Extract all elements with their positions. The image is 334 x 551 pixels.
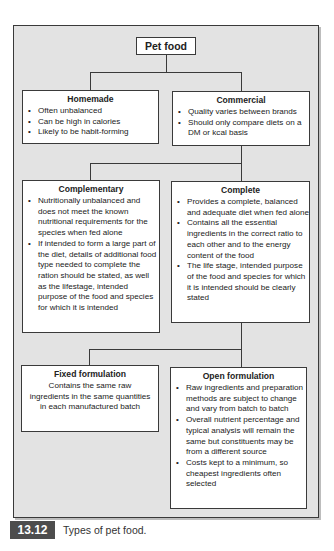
box-title: Homemade <box>23 94 158 105</box>
connector-complementary-down <box>90 163 91 180</box>
box-homemade: Homemade Often unbalanced Can be high in… <box>22 90 159 144</box>
figure-caption: Types of pet food. <box>63 522 146 538</box>
connector-homemade-down <box>90 72 91 90</box>
bullet-item: The life stage, intended purpose of the … <box>187 261 309 304</box>
box-open-formulation: Open formulation Raw ingredients and pre… <box>170 367 307 509</box>
box-title: Open formulation <box>171 371 306 382</box>
connector-level1-horizontal <box>90 72 242 73</box>
bullet-item: Likely to be habit-forming <box>38 127 158 138</box>
figure-number-badge: 13.12 <box>10 521 55 539</box>
box-title: Complementary <box>23 184 159 195</box>
root-box-pet-food: Pet food <box>136 37 196 55</box>
bullet-list: Often unbalanced Can be high in calories… <box>23 106 158 138</box>
box-fixed-formulation: Fixed formulation Contains the same raw … <box>21 365 159 432</box>
bullet-item: If intended to form a large part of the … <box>38 239 159 314</box>
connector-level2-horizontal <box>90 163 242 164</box>
bullet-item: Should only compare diets on a DM or kca… <box>188 118 309 139</box>
connector-level3-horizontal <box>89 349 242 350</box>
connector-complete-out <box>241 322 242 367</box>
bullet-list: Provides a complete, balanced and adequa… <box>172 197 309 304</box>
bullet-item: Quality varies between brands <box>188 107 309 118</box>
bullet-list: Nutritionally unbalanced and does not me… <box>23 196 159 314</box>
bullet-item: Nutritionally unbalanced and does not me… <box>38 196 159 239</box>
connector-fixed-down <box>89 349 90 365</box>
bullet-item: Provides a complete, balanced and adequa… <box>187 197 309 218</box>
bullet-list: Raw ingredients and preparation methods … <box>171 383 306 490</box>
bullet-item: Can be high in calories <box>38 117 158 128</box>
box-complementary: Complementary Nutritionally unbalanced a… <box>22 180 160 333</box>
root-title: Pet food <box>137 38 195 54</box>
box-description: Contains the same raw ingredients in the… <box>22 380 158 413</box>
bullet-item: Raw ingredients and preparation methods … <box>186 383 306 415</box>
bullet-item: Often unbalanced <box>38 106 158 117</box>
box-title: Fixed formulation <box>22 369 158 380</box>
bullet-item: Contains all the essential ingredients i… <box>187 218 309 261</box>
box-commercial: Commercial Quality varies between brands… <box>172 91 310 146</box>
box-title: Complete <box>172 185 309 196</box>
connector-root-down <box>166 54 167 73</box>
box-complete: Complete Provides a complete, balanced a… <box>171 181 310 323</box>
connector-commercial-down <box>241 72 242 91</box>
bullet-item: Overall nutrient percentage and typical … <box>186 415 306 458</box>
box-title: Commercial <box>173 95 309 106</box>
bullet-list: Quality varies between brands Should onl… <box>173 107 309 139</box>
bullet-item: Costs kept to a minimum, so cheapest ing… <box>186 458 306 490</box>
